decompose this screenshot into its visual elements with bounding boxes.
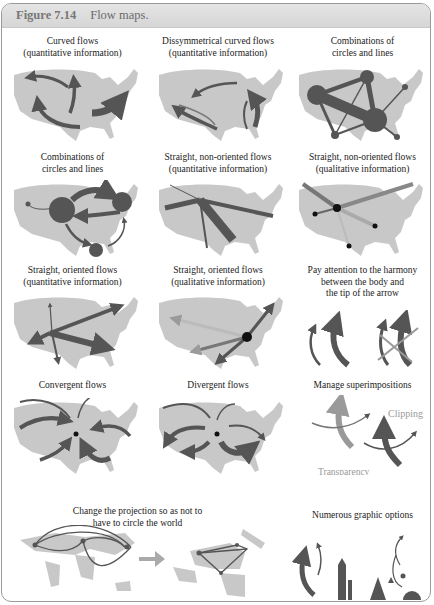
panel-straight-nonoriented-quant: Straight, non-oriented flows(quantitativ… xyxy=(148,152,288,175)
clipping-label: Clipping xyxy=(388,408,423,419)
divergent-flows-map xyxy=(155,398,290,478)
curved-flows-map xyxy=(10,65,145,145)
panel-caption: Convergent flows xyxy=(5,380,140,392)
harmony-arrows xyxy=(300,310,430,370)
panel-caption: Dissymmetrical curved flows(quantitative… xyxy=(148,36,288,59)
straight-oriented-qual-map xyxy=(155,293,290,373)
convergent-flows-map xyxy=(10,398,145,478)
panel-straight-nonoriented-qual: Straight, non-oriented flows(qualitative… xyxy=(295,152,430,175)
panel-dissymmetrical-flows: Dissymmetrical curved flows(quantitative… xyxy=(148,36,288,59)
superimpositions-diagram: Clipping Transparency xyxy=(300,395,430,475)
panel-caption: Divergent flows xyxy=(148,380,288,392)
panel-caption: Combinations ofcircles and lines xyxy=(295,36,430,59)
panel-straight-oriented-qual: Straight, oriented flows(qualitative inf… xyxy=(148,265,288,288)
straight-oriented-quant-map xyxy=(10,293,145,373)
panel-curved-flows: Curved flows(quantitative information) xyxy=(5,36,140,59)
panel-caption: Combinations ofcircles and lines xyxy=(5,152,140,175)
panel-graphic-options: Numerous graphic options xyxy=(295,510,430,522)
panel-caption: Straight, non-oriented flows(qualitative… xyxy=(295,152,430,175)
panel-caption: Straight, oriented flows(qualitative inf… xyxy=(148,265,288,288)
panel-combinations-2: Combinations ofcircles and lines xyxy=(5,152,140,175)
panel-divergent: Divergent flows xyxy=(148,380,288,392)
combinations-map-1 xyxy=(295,65,430,145)
figure-title: Flow maps. xyxy=(90,8,148,23)
panel-caption: Pay attention to the harmonybetween the … xyxy=(295,265,430,300)
panel-caption: Curved flows(quantitative information) xyxy=(5,36,140,59)
panel-combinations-1: Combinations ofcircles and lines xyxy=(295,36,430,59)
panel-caption: Manage superimpositions xyxy=(295,380,430,392)
panel-superimpositions: Manage superimpositions xyxy=(295,380,430,392)
straight-nonoriented-quant-map xyxy=(155,180,290,260)
combinations-map-2 xyxy=(10,180,145,260)
dissymmetrical-flows-map xyxy=(155,65,290,145)
graphic-options-diagram xyxy=(290,525,430,600)
panel-straight-oriented-quant: Straight, oriented flows(quantitative in… xyxy=(5,265,140,288)
figure-number: Figure 7.14 xyxy=(16,8,76,23)
panel-harmony: Pay attention to the harmonybetween the … xyxy=(295,265,430,300)
figure-header: Figure 7.14 Flow maps. xyxy=(2,4,430,28)
panel-caption: Straight, oriented flows(quantitative in… xyxy=(5,265,140,288)
projection-diagram xyxy=(15,525,285,600)
transparency-label: Transparency xyxy=(318,467,370,475)
panel-caption: Straight, non-oriented flows(quantitativ… xyxy=(148,152,288,175)
panel-convergent: Convergent flows xyxy=(5,380,140,392)
straight-nonoriented-qual-map xyxy=(295,180,430,260)
panel-caption: Numerous graphic options xyxy=(295,510,430,522)
